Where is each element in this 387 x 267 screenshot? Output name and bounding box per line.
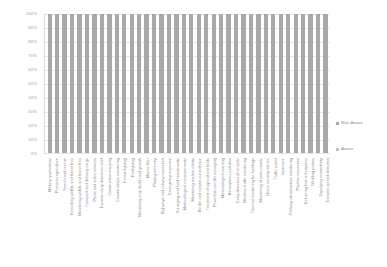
bar-slot	[270, 14, 277, 153]
bar	[219, 14, 223, 153]
bar-slot	[255, 14, 262, 153]
x-axis-tick-label: Disaster early detection relief	[100, 158, 104, 208]
x-axis-tick-label: Precision agriculture	[55, 158, 59, 193]
bar	[85, 14, 89, 153]
x-axis-tick-label: Railway infrastructure monitoring	[289, 158, 293, 215]
bar	[130, 14, 134, 153]
legend-item[interactable]: Non-Aware	[336, 120, 386, 126]
bar-slot	[143, 14, 150, 153]
x-axis-tick-label: Insurance	[281, 158, 285, 175]
bar-segment-non-aware	[241, 14, 245, 153]
x-axis-tick-label: Maritime traffic monitoring	[243, 158, 247, 203]
x-axis-tick-label: Meteorological warning	[221, 158, 225, 198]
y-axis-tick-label: 30%	[28, 109, 37, 115]
y-axis: 100%90%80%70%60%50%40%30%20%10%0%	[0, 8, 40, 160]
y-axis-tick-label: 80%	[28, 39, 37, 45]
bar	[271, 14, 275, 153]
x-axis-tick-label: Surveying and land investments	[176, 158, 180, 213]
bar	[167, 14, 171, 153]
x-axis-tick-label: Military applications	[48, 158, 52, 192]
legend-swatch-icon	[336, 148, 339, 151]
bar	[174, 14, 178, 153]
x-axis-tick-label: Emergency response	[168, 158, 172, 195]
y-axis-tick-label: 20%	[28, 123, 37, 129]
x-axis-tick-label: Search and rescue	[63, 158, 67, 191]
bar-slot	[195, 14, 202, 153]
bar-segment-non-aware	[182, 14, 186, 153]
x-axis-tick-label: Border and coastal surveillance	[198, 158, 202, 212]
bar-slot	[76, 14, 83, 153]
bar-slot	[83, 14, 90, 153]
bar	[182, 14, 186, 153]
bar-slot	[314, 14, 321, 153]
bar-segment-non-aware	[294, 14, 298, 153]
bar	[294, 14, 298, 153]
x-axis-tick-label: Photo and video services	[93, 158, 97, 201]
bar-segment-non-aware	[279, 14, 283, 153]
y-axis-tick-label: 60%	[28, 67, 37, 73]
bar	[197, 14, 201, 153]
bar-segment-non-aware	[100, 14, 104, 153]
bar	[189, 14, 193, 153]
x-axis-tick-label: Highways and railway inspection	[161, 158, 165, 214]
bar	[77, 14, 81, 153]
bar	[115, 14, 119, 153]
bar-segment-non-aware	[204, 14, 208, 153]
bar-slot	[203, 14, 210, 153]
bar-segment-non-aware	[189, 14, 193, 153]
bar-slot	[225, 14, 232, 153]
y-axis-tick-label: 90%	[28, 25, 37, 31]
bar-segment-non-aware	[115, 14, 119, 153]
bar-slot	[299, 14, 306, 153]
x-axis-tick-label: Home security alarms	[266, 158, 270, 196]
bar-slot	[285, 14, 292, 153]
bar-segment-non-aware	[92, 14, 96, 153]
bar-slot	[68, 14, 75, 153]
bar-segment-non-aware	[197, 14, 201, 153]
bar	[256, 14, 260, 153]
bar-slot	[188, 14, 195, 153]
bar-segment-non-aware	[167, 14, 171, 153]
bar	[212, 14, 216, 153]
x-axis-tick-label: Monitoring nuclear plants	[191, 158, 195, 201]
y-axis-tick-label: 40%	[28, 95, 37, 101]
x-axis-tick-label: Transport and delivery cargo	[85, 158, 89, 207]
bar	[286, 14, 290, 153]
x-axis-tick-label: Atmospheric pollution	[228, 158, 232, 195]
bar-segment-non-aware	[122, 14, 126, 153]
x-axis-tick-label: Thermal monitoring for buildings	[251, 158, 255, 214]
y-axis-tick-label: 0%	[31, 151, 37, 157]
bar-slot	[158, 14, 165, 153]
x-axis-tick-label: Marine litter	[146, 158, 150, 178]
y-axis-tick-label: 70%	[28, 53, 37, 59]
legend-item[interactable]: Aware	[336, 146, 386, 152]
x-axis-tick-label: Disaster spread detection	[326, 158, 330, 202]
bar-segment-non-aware	[85, 14, 89, 153]
x-axis-tick-label: Monitoring of solar panels	[259, 158, 263, 203]
bar-segment-non-aware	[264, 14, 268, 153]
bar-slot	[61, 14, 68, 153]
x-axis-tick-label: Photogrammetry	[153, 158, 157, 187]
bar	[100, 14, 104, 153]
x-axis-tick-label: Forest fighting	[123, 158, 127, 183]
x-axis-tick-label: Construction mapping	[108, 158, 112, 196]
bar	[107, 14, 111, 153]
bar	[204, 14, 208, 153]
bar	[92, 14, 96, 153]
bar-segment-non-aware	[159, 14, 163, 153]
bar-slot	[232, 14, 239, 153]
bar	[316, 14, 320, 153]
x-axis-tick-label: Early detection of oil spills	[236, 158, 240, 203]
bar-slot	[292, 14, 299, 153]
bar-segment-non-aware	[137, 14, 141, 153]
y-axis-tick-label: 100%	[26, 11, 37, 17]
bar-slot	[128, 14, 135, 153]
bar	[137, 14, 141, 153]
bar-slot	[98, 14, 105, 153]
bar-segment-non-aware	[316, 14, 320, 153]
bar	[279, 14, 283, 153]
bar-segment-non-aware	[48, 14, 52, 153]
bar-slot	[277, 14, 284, 153]
bar	[264, 14, 268, 153]
bar-segment-non-aware	[286, 14, 290, 153]
